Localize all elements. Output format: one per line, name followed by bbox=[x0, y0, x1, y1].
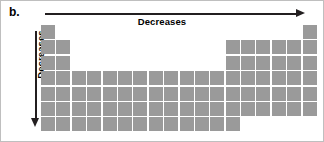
element-cell bbox=[72, 102, 86, 116]
element-cell bbox=[272, 102, 286, 116]
empty-cell bbox=[256, 117, 270, 131]
element-cell bbox=[226, 56, 240, 70]
element-cell bbox=[210, 87, 224, 101]
element-cell bbox=[303, 25, 317, 39]
empty-cell bbox=[72, 56, 86, 70]
element-cell bbox=[256, 102, 270, 116]
element-cell bbox=[133, 87, 147, 101]
element-cell bbox=[180, 102, 194, 116]
empty-cell bbox=[241, 117, 255, 131]
element-cell bbox=[256, 40, 270, 54]
element-cell bbox=[303, 71, 317, 85]
element-cell bbox=[118, 102, 132, 116]
periodic-table-grid bbox=[41, 25, 317, 131]
empty-cell bbox=[256, 25, 270, 39]
element-cell bbox=[256, 56, 270, 70]
empty-cell bbox=[287, 117, 301, 131]
element-cell bbox=[56, 40, 70, 54]
empty-cell bbox=[164, 40, 178, 54]
empty-cell bbox=[118, 25, 132, 39]
empty-cell bbox=[149, 40, 163, 54]
element-cell bbox=[56, 71, 70, 85]
element-cell bbox=[226, 87, 240, 101]
element-cell bbox=[41, 56, 55, 70]
empty-cell bbox=[103, 25, 117, 39]
empty-cell bbox=[87, 56, 101, 70]
element-cell bbox=[256, 71, 270, 85]
element-cell bbox=[210, 117, 224, 131]
element-cell bbox=[41, 25, 55, 39]
element-cell bbox=[303, 102, 317, 116]
element-cell bbox=[195, 117, 209, 131]
empty-cell bbox=[56, 25, 70, 39]
element-cell bbox=[149, 117, 163, 131]
element-cell bbox=[87, 87, 101, 101]
element-cell bbox=[87, 102, 101, 116]
element-cell bbox=[41, 71, 55, 85]
element-cell bbox=[195, 102, 209, 116]
element-cell bbox=[41, 87, 55, 101]
element-cell bbox=[272, 71, 286, 85]
element-cell bbox=[133, 102, 147, 116]
element-cell bbox=[272, 40, 286, 54]
vertical-trend-arrow: Decreases bbox=[34, 31, 37, 127]
element-cell bbox=[56, 87, 70, 101]
element-cell bbox=[287, 87, 301, 101]
element-cell bbox=[118, 71, 132, 85]
element-cell bbox=[195, 87, 209, 101]
element-cell bbox=[87, 71, 101, 85]
horizontal-trend-arrow bbox=[45, 12, 305, 15]
element-cell bbox=[303, 56, 317, 70]
empty-cell bbox=[149, 56, 163, 70]
element-cell bbox=[41, 102, 55, 116]
element-cell bbox=[303, 87, 317, 101]
empty-cell bbox=[210, 40, 224, 54]
empty-cell bbox=[118, 40, 132, 54]
empty-cell bbox=[103, 40, 117, 54]
empty-cell bbox=[180, 56, 194, 70]
element-cell bbox=[272, 56, 286, 70]
element-cell bbox=[103, 71, 117, 85]
element-cell bbox=[287, 102, 301, 116]
element-cell bbox=[149, 102, 163, 116]
arrow-shaft bbox=[45, 13, 297, 15]
empty-cell bbox=[226, 25, 240, 39]
element-cell bbox=[41, 40, 55, 54]
element-cell bbox=[149, 87, 163, 101]
element-cell bbox=[103, 87, 117, 101]
empty-cell bbox=[72, 40, 86, 54]
element-cell bbox=[56, 117, 70, 131]
element-cell bbox=[287, 40, 301, 54]
element-cell bbox=[72, 71, 86, 85]
empty-cell bbox=[210, 56, 224, 70]
empty-cell bbox=[87, 40, 101, 54]
empty-cell bbox=[195, 56, 209, 70]
element-cell bbox=[303, 40, 317, 54]
element-cell bbox=[210, 71, 224, 85]
empty-cell bbox=[72, 25, 86, 39]
element-cell bbox=[133, 117, 147, 131]
element-cell bbox=[164, 102, 178, 116]
empty-cell bbox=[164, 56, 178, 70]
element-cell bbox=[164, 71, 178, 85]
element-cell bbox=[72, 87, 86, 101]
empty-cell bbox=[210, 25, 224, 39]
element-cell bbox=[241, 71, 255, 85]
empty-cell bbox=[241, 25, 255, 39]
arrow-down-icon bbox=[31, 118, 39, 127]
empty-cell bbox=[195, 40, 209, 54]
element-cell bbox=[226, 40, 240, 54]
empty-cell bbox=[87, 25, 101, 39]
empty-cell bbox=[272, 117, 286, 131]
empty-cell bbox=[133, 40, 147, 54]
empty-cell bbox=[195, 25, 209, 39]
empty-cell bbox=[180, 40, 194, 54]
element-cell bbox=[180, 117, 194, 131]
element-cell bbox=[241, 87, 255, 101]
element-cell bbox=[180, 71, 194, 85]
element-cell bbox=[103, 117, 117, 131]
element-cell bbox=[72, 117, 86, 131]
element-cell bbox=[41, 117, 55, 131]
element-cell bbox=[241, 102, 255, 116]
empty-cell bbox=[164, 25, 178, 39]
